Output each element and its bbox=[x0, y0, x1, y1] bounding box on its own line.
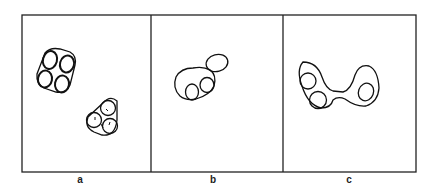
cluster-four-circles bbox=[37, 49, 76, 94]
figure-diagram bbox=[0, 0, 438, 195]
panel-label-b: b bbox=[210, 174, 216, 185]
panel-label-a: a bbox=[77, 174, 83, 185]
cluster-three-circles bbox=[87, 98, 118, 135]
panel-b-drawing bbox=[175, 52, 230, 100]
panel-c-drawing bbox=[299, 62, 379, 109]
panel-label-c: c bbox=[346, 174, 352, 185]
figure-frame bbox=[22, 15, 416, 172]
panel-a-drawing bbox=[37, 49, 118, 136]
